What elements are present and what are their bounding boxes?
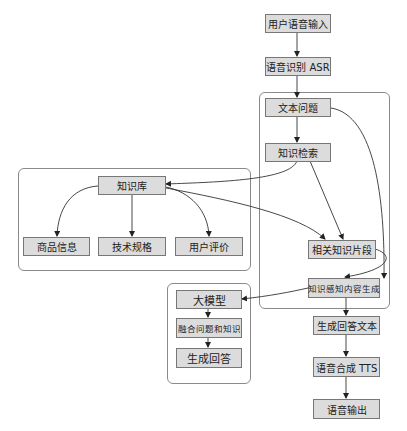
cluster-question-processing: [259, 92, 390, 309]
node-tts: 语音合成 TTS: [313, 357, 380, 377]
node-asr: 语音识别 ASR: [265, 57, 331, 76]
node-knowledge-aware-generation: 知识感知内容生成: [308, 278, 380, 298]
node-voice-output: 语音输出: [313, 399, 380, 419]
node-user-reviews: 用户评价: [175, 237, 243, 256]
node-llm: 大模型: [176, 290, 242, 309]
node-product-info: 商品信息: [23, 237, 90, 256]
node-generate-answer: 生成回答: [176, 348, 242, 368]
node-fuse-question-knowledge: 融合问题和知识: [176, 318, 242, 338]
node-text-question: 文本问题: [265, 98, 331, 117]
node-knowledge-base: 知识库: [98, 176, 166, 195]
node-tech-specs: 技术规格: [98, 237, 166, 256]
node-answer-text: 生成回答文本: [313, 316, 380, 335]
node-knowledge-retrieval: 知识检索: [265, 143, 331, 162]
node-relevant-snippets: 相关知识片段: [308, 240, 376, 259]
node-user-voice-input: 用户语音输入: [265, 14, 331, 33]
